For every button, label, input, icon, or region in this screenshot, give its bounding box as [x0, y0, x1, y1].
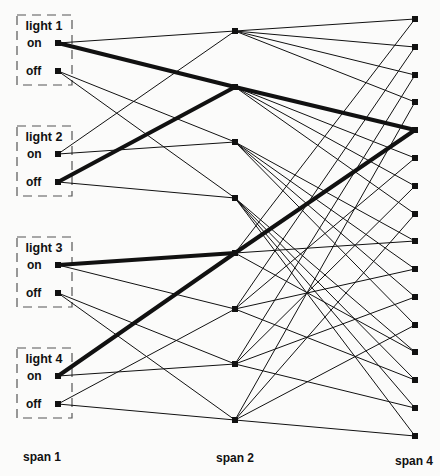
edge-s1-0-s2-0: [58, 31, 235, 43]
diagram-canvas: [0, 0, 440, 476]
edge-s2-7-s4-7: [235, 214, 415, 420]
span4-node-10: [412, 294, 418, 300]
span4-node-12: [412, 349, 418, 355]
span4-node-11: [412, 322, 418, 328]
span2-node-4: [232, 250, 238, 256]
edge-s1-2-s2-2: [58, 142, 235, 154]
edge-s2-5-s4-1: [235, 47, 415, 309]
span4-node-3: [412, 99, 418, 105]
light-4-on-label: on: [27, 370, 42, 382]
light-4-title: light 4: [26, 353, 63, 366]
span1-node-2: [55, 151, 61, 157]
light-1-on-label: on: [27, 37, 42, 49]
span4-node-6: [412, 183, 418, 189]
span1-node-1: [55, 68, 61, 74]
span1-node-4: [55, 262, 61, 268]
edge-s2-4-s4-0: [235, 19, 415, 253]
span4-node-5: [412, 155, 418, 161]
edge-s2-0-s4-3: [235, 31, 415, 102]
column-label-span-2: span 2: [216, 452, 254, 464]
column-label-span-4: span 4: [395, 455, 433, 467]
edge-s2-0-s4-1: [235, 31, 415, 47]
edge-s1-5-s2-6: [58, 293, 235, 364]
light-2-on-label: on: [27, 148, 42, 160]
light-2-off-label: off: [26, 176, 41, 188]
span4-node-7: [412, 211, 418, 217]
edge-s2-0-s4-2: [235, 31, 415, 75]
span2-node-0: [232, 28, 238, 34]
light-1-off-label: off: [26, 65, 41, 77]
span4-node-0: [412, 16, 418, 22]
span2-node-1: [232, 84, 238, 90]
span2-node-3: [232, 195, 238, 201]
span4-node-8: [412, 238, 418, 244]
light-2-title: light 2: [26, 131, 63, 144]
span1-node-6: [55, 373, 61, 379]
edge-s2-2-s4-9: [235, 142, 415, 269]
edge-s1-3-s2-3: [58, 182, 235, 198]
nodes: [55, 16, 418, 439]
span1-node-0: [55, 40, 61, 46]
light-3-title: light 3: [26, 242, 63, 255]
span4-node-1: [412, 44, 418, 50]
bold-edge-4: [235, 87, 415, 130]
edge-s2-6-s4-2: [235, 75, 415, 364]
span1-node-5: [55, 290, 61, 296]
bold-edge-2: [58, 253, 235, 265]
edge-s2-5-s4-13: [235, 309, 415, 380]
edge-s2-6-s4-10: [235, 297, 415, 364]
span4-node-13: [412, 377, 418, 383]
span1-node-7: [55, 401, 61, 407]
bold-edge-5: [235, 130, 415, 253]
span4-node-4: [412, 127, 418, 133]
edge-s2-0-s4-0: [235, 19, 415, 31]
column-label-span-1: span 1: [23, 451, 61, 463]
light-1-title: light 1: [26, 20, 63, 33]
edge-s2-6-s4-14: [235, 364, 415, 408]
span2-node-6: [232, 361, 238, 367]
edge-s2-4-s4-8: [235, 241, 415, 253]
thin-edges: [58, 19, 415, 436]
span4-node-14: [412, 405, 418, 411]
light-3-on-label: on: [27, 259, 42, 271]
light-4-off-label: off: [26, 398, 41, 410]
edge-s2-7-s4-15: [235, 420, 415, 436]
span2-node-7: [232, 417, 238, 423]
span2-node-5: [232, 306, 238, 312]
span2-node-2: [232, 139, 238, 145]
span4-node-2: [412, 72, 418, 78]
span1-node-3: [55, 179, 61, 185]
edge-s1-6-s2-6: [58, 364, 235, 376]
span4-node-9: [412, 266, 418, 272]
span4-node-15: [412, 433, 418, 439]
bold-edge-1: [58, 87, 235, 182]
edge-s1-7-s2-7: [58, 404, 235, 420]
light-3-off-label: off: [26, 287, 41, 299]
